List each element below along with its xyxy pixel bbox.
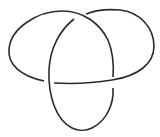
trefoil-knot-diagram	[0, 0, 160, 137]
knot-strand-left-lobe	[9, 11, 113, 81]
knot-strand-bottom-lobe	[49, 19, 113, 130]
knot-strand-right-lobe	[54, 10, 154, 84]
